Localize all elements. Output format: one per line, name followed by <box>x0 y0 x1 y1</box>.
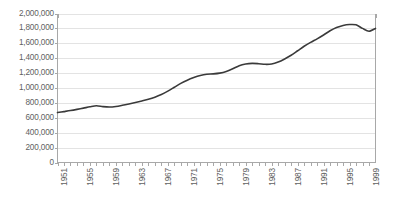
x-axis-tick-label: 1991 <box>321 168 329 186</box>
x-axis-tick-label: 1963 <box>139 168 147 186</box>
x-axis-tick-label: 1951 <box>61 168 69 186</box>
x-axis-tick-label: 1979 <box>243 168 251 186</box>
x-axis-tick-label: 1971 <box>191 168 199 186</box>
x-axis-tick-label: 1995 <box>347 168 355 186</box>
x-axis-tick-label: 1959 <box>113 168 121 186</box>
x-axis-tick-label: 1999 <box>373 168 381 186</box>
x-axis-tick-label: 1967 <box>165 168 173 186</box>
x-axis-label-group: 1951195519591963196719711975197919831987… <box>0 0 398 207</box>
x-axis-tick-label: 1987 <box>295 168 303 186</box>
x-axis-tick-label: 1983 <box>269 168 277 186</box>
x-axis-tick-label: 1975 <box>217 168 225 186</box>
line-chart: 2,000,0001,800,0001,600,0001,400,0001,20… <box>0 0 398 207</box>
x-axis-tick-label: 1955 <box>87 168 95 186</box>
